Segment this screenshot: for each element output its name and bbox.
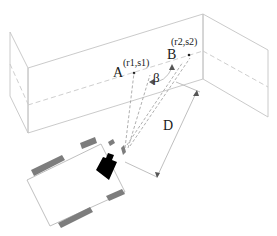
wall-left: [10, 32, 28, 133]
wall-right: [203, 14, 268, 117]
diagram-canvas: A (r1,s1) B (r2,s2) β D: [0, 0, 277, 236]
ray-a-right: [128, 75, 150, 148]
distance-arrow-bottom-icon: [155, 172, 160, 178]
wheel-rear-right-icon: [58, 207, 93, 228]
label-angle-beta: β: [153, 70, 160, 85]
camera-head-icon: [96, 153, 117, 180]
label-point-b-coord: (r2,s2): [171, 36, 197, 48]
diagram-svg: A (r1,s1) B (r2,s2) β D: [0, 0, 277, 236]
robot: [27, 137, 126, 228]
angle-arrow-right-icon: [169, 64, 175, 70]
distance-line: [157, 93, 196, 177]
label-point-b: B: [167, 47, 176, 62]
walls: [10, 14, 268, 133]
sensor-left-icon: [108, 139, 115, 146]
label-distance-d: D: [163, 118, 173, 133]
wall-left-midline: [10, 64, 28, 104]
ray-a-left: [125, 73, 134, 148]
wheel-rear-left-icon: [31, 155, 65, 176]
wheel-front-right-icon: [106, 189, 125, 201]
point-b-marker: [188, 54, 191, 57]
label-point-a-coord: (r1,s1): [123, 57, 149, 69]
wall-right-midline: [203, 51, 268, 87]
distance-ext-line: [125, 162, 157, 177]
